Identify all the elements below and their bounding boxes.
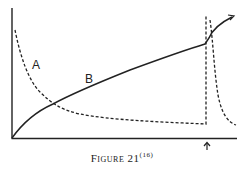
chart-plot: A B [0,0,244,150]
event-arrow-icon [204,143,210,151]
caption-number: 21 [128,152,140,164]
caption-reference: (16) [140,151,154,159]
caption-prefix: Figure [91,152,125,164]
series-a-curve-peak [210,20,236,125]
figure-caption: Figure 21(16) [0,151,244,164]
series-a-label: A [32,58,40,72]
series-a-curve [15,15,206,124]
series-b-label: B [85,72,93,86]
